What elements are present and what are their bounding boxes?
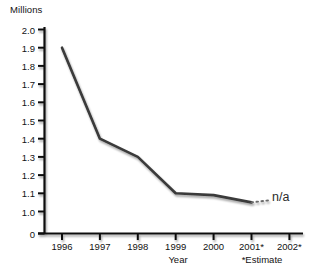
y-axis-tick-label: 1.5 bbox=[9, 115, 35, 126]
y-axis-tick-label: 0 bbox=[9, 228, 35, 239]
y-axis-tick-label: 1.4 bbox=[9, 133, 35, 144]
x-axis-title: Year bbox=[168, 254, 187, 265]
y-axis-tick-label: 1.8 bbox=[9, 60, 35, 71]
x-axis-tick-label: 2001* bbox=[239, 241, 264, 252]
data-series-group bbox=[62, 48, 269, 203]
y-axis-tick-label: 1.1 bbox=[9, 188, 35, 199]
x-axis-tick-label: 1998 bbox=[127, 241, 148, 252]
y-axis-tick-label: 1.7 bbox=[9, 79, 35, 90]
y-axis-tick-label: 1.3 bbox=[9, 151, 35, 162]
x-axis-tick-label: 1997 bbox=[89, 241, 110, 252]
x-axis-tick-label: 2000 bbox=[203, 241, 224, 252]
y-axis-tick-labels: 2.01.91.81.71.61.51.41.31.21.11.00 bbox=[5, 0, 35, 274]
estimate-footnote: *Estimate bbox=[242, 254, 283, 265]
y-axis-tick-label: 1.2 bbox=[9, 170, 35, 181]
y-axis-tick-label: 1.6 bbox=[9, 97, 35, 108]
x-axis-tick-label: 1996 bbox=[51, 241, 72, 252]
na-annotation-label: n/a bbox=[272, 190, 289, 204]
x-axis-tick-label: 1999 bbox=[165, 241, 186, 252]
series-line-na-dotted bbox=[252, 200, 269, 202]
chart-plot-area bbox=[0, 0, 311, 274]
chart-axes bbox=[38, 27, 303, 240]
y-axis-tick-label: 2.0 bbox=[9, 24, 35, 35]
series-line-millions bbox=[62, 48, 252, 203]
y-axis-tick-label: 1.9 bbox=[9, 42, 35, 53]
chart-figure: Millions 2.01.91.81.71.61.51.41.31.21.11… bbox=[0, 0, 311, 274]
y-axis-tick-label: 1.0 bbox=[9, 206, 35, 217]
x-axis-tick-label: 2002* bbox=[277, 241, 302, 252]
